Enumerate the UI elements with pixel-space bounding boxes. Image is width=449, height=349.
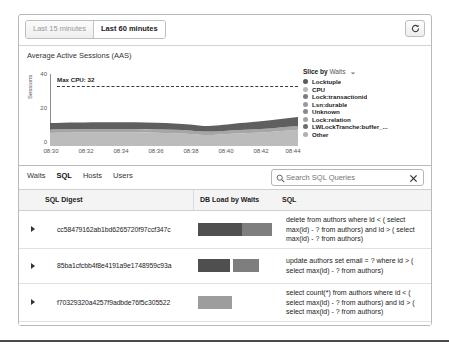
y-tick-0: 0 bbox=[31, 139, 47, 145]
load-segment bbox=[198, 296, 232, 309]
search-icon bbox=[276, 169, 285, 187]
refresh-button[interactable] bbox=[405, 20, 425, 37]
legend-item-lock-transactionid[interactable]: Lock:transactionid bbox=[303, 93, 423, 100]
sql-digest-table: SQL Digest DB Load by Waits SQL cc584791… bbox=[19, 189, 431, 325]
row-expander-cell[interactable] bbox=[19, 249, 39, 283]
y-tick-20: 20 bbox=[31, 105, 47, 111]
time-range-toolbar: Last 15 minutes Last 60 minutes bbox=[19, 15, 431, 45]
sql-statement: update authors set email = ? where id > … bbox=[280, 256, 427, 275]
time-range-button-group[interactable]: Last 15 minutes Last 60 minutes bbox=[25, 20, 166, 39]
legend-item-lwlocktranche-buffer[interactable]: LWLockTranche:buffer_... bbox=[303, 123, 423, 130]
sql-statement: delete from authors where id < ( select … bbox=[280, 215, 427, 244]
chevron-down-icon: ⌄ bbox=[350, 68, 356, 75]
tab-users[interactable]: Users bbox=[113, 172, 133, 180]
chevron-right-icon[interactable] bbox=[31, 299, 35, 305]
load-segment bbox=[233, 259, 259, 272]
legend-item-other[interactable]: Other bbox=[303, 131, 423, 138]
cell-sql-digest[interactable]: f70329320a4257f9adbde76f5c305522 bbox=[39, 284, 194, 321]
range-button-last-15-minutes[interactable]: Last 15 minutes bbox=[26, 21, 93, 38]
legend-dot bbox=[303, 87, 308, 92]
legend-dot bbox=[303, 124, 308, 129]
close-icon[interactable] bbox=[409, 169, 418, 187]
legend-dot bbox=[303, 102, 308, 107]
tab-hosts[interactable]: Hosts bbox=[83, 172, 102, 180]
aas-stacked-area bbox=[50, 74, 298, 146]
legend-item-unknown[interactable]: Unknown bbox=[303, 108, 423, 115]
chart-title: Average Active Sessions (AAS) bbox=[27, 51, 132, 60]
chevron-right-icon[interactable] bbox=[31, 226, 35, 232]
tab-sql[interactable]: SQL bbox=[56, 172, 71, 180]
search-box[interactable] bbox=[271, 169, 424, 186]
row-expander-cell[interactable] bbox=[19, 211, 39, 248]
legend-label: Locktuple bbox=[312, 78, 341, 85]
cell-db-load bbox=[194, 249, 276, 283]
chevron-right-icon[interactable] bbox=[31, 263, 35, 269]
table-row[interactable]: 77a0d1019d0d3e06da84981b6f10c514 select … bbox=[19, 322, 431, 325]
slice-by-control[interactable]: Slice by Waits ⌄ bbox=[303, 68, 423, 76]
db-load-bar bbox=[198, 259, 259, 272]
page-bottom-rule bbox=[0, 340, 449, 342]
legend-item-lock-relation[interactable]: Lock:relation bbox=[303, 116, 423, 123]
legend-label: Lock:transactionid bbox=[312, 93, 367, 100]
load-segment bbox=[198, 259, 230, 272]
x-tick-2: 08:34 bbox=[109, 148, 133, 154]
cell-sql-digest[interactable]: 77a0d1019d0d3e06da84981b6f10c514 bbox=[39, 322, 194, 325]
db-load-bar bbox=[198, 296, 232, 309]
x-tick-7: 08:44 bbox=[281, 148, 305, 154]
cell-sql-text: select count(*) from authors where id < … bbox=[276, 284, 431, 321]
legend-dot bbox=[303, 109, 308, 114]
column-header-sql[interactable]: SQL bbox=[276, 190, 431, 210]
x-tick-1: 08:32 bbox=[74, 148, 98, 154]
cell-db-load bbox=[194, 322, 276, 325]
dimension-tabs: Waits SQL Hosts Users bbox=[27, 172, 133, 180]
aas-chart-section: Average Active Sessions (AAS) Sessions 4… bbox=[19, 45, 431, 165]
cell-sql-digest[interactable]: cc58479162ab1bd6265720f97ccf347c bbox=[39, 211, 194, 248]
load-segment bbox=[198, 223, 242, 236]
legend-item-cpu[interactable]: CPU bbox=[303, 86, 423, 93]
refresh-icon bbox=[411, 24, 420, 33]
column-header-sql-digest[interactable]: SQL Digest bbox=[39, 190, 194, 210]
x-tick-4: 08:38 bbox=[179, 148, 203, 154]
cell-sql-text: select count(*) from authors where id < … bbox=[276, 322, 431, 325]
legend-dot bbox=[303, 94, 308, 99]
legend-item-lsn-durable[interactable]: Lsn:durable bbox=[303, 101, 423, 108]
legend-dot bbox=[303, 132, 308, 137]
legend-label: CPU bbox=[312, 86, 325, 93]
x-tick-3: 08:36 bbox=[144, 148, 168, 154]
search-input[interactable] bbox=[286, 173, 409, 182]
y-axis-label: Sessions bbox=[27, 75, 33, 99]
legend-item-locktuple[interactable]: Locktuple bbox=[303, 78, 423, 85]
cell-db-load bbox=[194, 284, 276, 321]
screenshot-root: Last 15 minutes Last 60 minutes Average … bbox=[0, 0, 449, 349]
aas-chart-plot: Sessions 40 20 0 Max CPU: 32 08:30 08:32 bbox=[31, 65, 301, 161]
cell-db-load bbox=[194, 211, 276, 248]
legend-label: Lock:relation bbox=[312, 116, 351, 123]
y-tick-40: 40 bbox=[31, 71, 47, 77]
range-button-last-60-minutes[interactable]: Last 60 minutes bbox=[93, 21, 165, 38]
column-header-db-load-by-waits[interactable]: DB Load by Waits bbox=[194, 190, 276, 210]
tab-waits[interactable]: Waits bbox=[27, 172, 45, 180]
table-row[interactable]: cc58479162ab1bd6265720f97ccf347c delete … bbox=[19, 211, 431, 249]
dimension-tabs-row: Waits SQL Hosts Users bbox=[19, 165, 431, 189]
chart-legend: Slice by Waits ⌄ Locktuple CPU Lock:tran… bbox=[303, 68, 423, 138]
table-row[interactable]: 85ba1cfcbb4f8e4191a9e1748959c93a update … bbox=[19, 249, 431, 284]
row-expander-cell[interactable] bbox=[19, 322, 39, 325]
sql-statement: select count(*) from authors where id < … bbox=[280, 288, 427, 317]
header-expander-spacer bbox=[19, 190, 39, 210]
performance-insights-panel: Last 15 minutes Last 60 minutes Average … bbox=[18, 14, 432, 326]
legend-dot bbox=[303, 117, 308, 122]
legend-label: Other bbox=[312, 131, 329, 138]
cell-sql-digest[interactable]: 85ba1cfcbb4f8e4191a9e1748959c93a bbox=[39, 249, 194, 283]
sql-digest-value: 85ba1cfcbb4f8e4191a9e1748959c93a bbox=[43, 262, 171, 269]
db-load-bar bbox=[198, 223, 272, 236]
table-header-row: SQL Digest DB Load by Waits SQL bbox=[19, 189, 431, 211]
cell-sql-text: update authors set email = ? where id > … bbox=[276, 249, 431, 283]
cell-sql-text: delete from authors where id < ( select … bbox=[276, 211, 431, 248]
x-tick-0: 08:30 bbox=[39, 148, 63, 154]
slice-by-value: Waits bbox=[329, 68, 345, 75]
legend-label: Lsn:durable bbox=[312, 101, 347, 108]
table-row[interactable]: f70329320a4257f9adbde76f5c305522 select … bbox=[19, 284, 431, 322]
sql-digest-value: f70329320a4257f9adbde76f5c305522 bbox=[43, 299, 170, 306]
sql-digest-value: cc58479162ab1bd6265720f97ccf347c bbox=[43, 226, 171, 233]
row-expander-cell[interactable] bbox=[19, 284, 39, 321]
